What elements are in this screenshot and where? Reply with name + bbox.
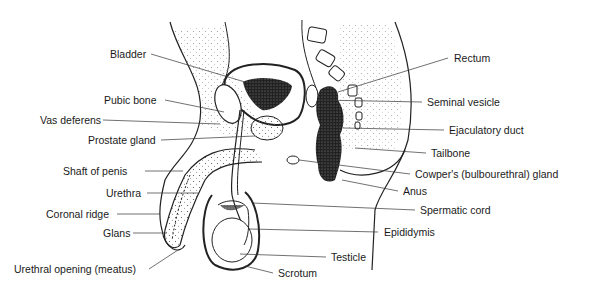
label-coronal-ridge: Coronal ridge [46, 208, 109, 220]
label-tailbone: Tailbone [431, 147, 470, 159]
label-seminal-vesicle: Seminal vesicle [427, 96, 500, 108]
label-pubic-bone: Pubic bone [104, 94, 157, 106]
label-ejaculatory-duct: Ejaculatory duct [449, 124, 524, 136]
anatomy-illustration [0, 0, 589, 295]
label-spermatic-cord: Spermatic cord [420, 204, 491, 216]
label-glans: Glans [103, 227, 130, 239]
label-urethra: Urethra [106, 187, 141, 199]
label-testicle: Testicle [331, 251, 366, 263]
label-prostate-gland: Prostate gland [88, 134, 156, 146]
anatomy-diagram: Bladder Pubic bone Vas deferens Prostate… [0, 0, 589, 295]
label-rectum: Rectum [454, 52, 490, 64]
label-bladder: Bladder [110, 48, 146, 60]
label-shaft-of-penis: Shaft of penis [63, 165, 127, 177]
label-vas-deferens: Vas deferens [40, 114, 101, 126]
label-scrotum: Scrotum [278, 267, 317, 279]
label-epididymis: Epididymis [384, 226, 435, 238]
label-urethral-opening: Urethral opening (meatus) [14, 263, 136, 275]
label-cowpers-gland: Cowper's (bulbourethral) gland [415, 168, 558, 180]
label-anus: Anus [403, 185, 427, 197]
